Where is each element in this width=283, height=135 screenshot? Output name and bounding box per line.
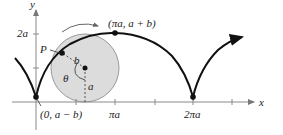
point-p-label: P <box>39 43 47 55</box>
rotation-arrow-icon <box>62 24 98 32</box>
radius-b-label: b <box>74 54 80 66</box>
top-point <box>112 30 118 36</box>
top-point-label: (πa, a + b) <box>108 17 156 30</box>
start-cusp-point <box>33 94 39 100</box>
trochoid-diagram: y x 2a πa 2πa (πa, a + b) (0, a − b) P b… <box>0 0 283 135</box>
tick-label-pi-a: πa <box>109 108 121 120</box>
tick-label-2pi-a: 2πa <box>184 108 201 120</box>
x-axis-label: x <box>258 96 264 108</box>
circle-center-point <box>83 66 88 71</box>
start-point-label: (0, a − b) <box>40 108 83 121</box>
tick-label-2a: 2a <box>17 27 29 39</box>
trochoid-curve <box>15 33 242 97</box>
theta-label: θ <box>63 72 69 84</box>
radius-a-label: a <box>88 80 94 92</box>
y-axis-label: y <box>29 0 35 10</box>
point-p <box>59 50 65 56</box>
diagram-canvas: y x 2a πa 2πa (πa, a + b) (0, a − b) P b… <box>0 0 283 135</box>
second-cusp-point <box>190 94 196 100</box>
